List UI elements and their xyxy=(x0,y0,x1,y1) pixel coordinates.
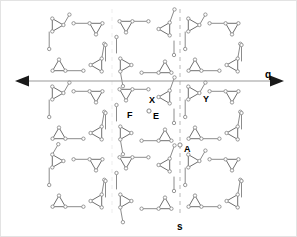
trimer-node xyxy=(187,30,190,33)
trimer-tail-node xyxy=(204,149,207,152)
diagram-canvas xyxy=(1,1,297,237)
trimer-node xyxy=(101,22,104,25)
point-label-y: Y xyxy=(203,95,209,104)
trimer-node xyxy=(157,163,160,166)
trimer-node xyxy=(100,206,103,209)
trimer-node xyxy=(130,131,133,134)
trimer-node xyxy=(51,69,54,72)
trimer-node xyxy=(200,137,203,140)
trimer-node xyxy=(225,131,228,134)
trimer-node xyxy=(88,22,91,25)
trimer-tail-node xyxy=(147,156,150,159)
cell-rail-node xyxy=(240,111,243,114)
trimer-node xyxy=(119,206,122,209)
trimer-node xyxy=(119,125,122,128)
axis-label-s: s xyxy=(177,222,183,232)
trimer-node xyxy=(51,205,54,208)
cell-rail-node xyxy=(240,179,243,182)
trimer-tail xyxy=(120,139,123,154)
trimer-node xyxy=(224,22,227,25)
trimer-node xyxy=(119,70,122,73)
trimer-node xyxy=(237,158,240,161)
trimer-node xyxy=(193,194,196,197)
point-label-x: X xyxy=(149,96,155,105)
trimer-node xyxy=(101,90,104,93)
trimer-node xyxy=(157,95,160,98)
trimer-node xyxy=(200,69,203,72)
trimer-tail-node xyxy=(121,84,124,87)
trimer-node xyxy=(237,22,240,25)
trimer-node xyxy=(100,57,103,60)
trimer-node xyxy=(236,138,239,141)
trimer-node xyxy=(157,139,160,142)
axis-arrow-right-icon xyxy=(270,76,284,87)
cell-rail-node xyxy=(184,115,187,118)
trimer-node xyxy=(236,70,239,73)
trimer-node xyxy=(89,131,92,134)
cell-rail-node xyxy=(172,53,175,56)
trimer-node xyxy=(89,199,92,202)
trimer-node xyxy=(200,205,203,208)
trimer-tail-node xyxy=(208,90,211,93)
trimer-node xyxy=(187,205,190,208)
cell-rail-node xyxy=(184,47,187,50)
trimer-node xyxy=(94,33,97,36)
trimer-node xyxy=(168,89,171,92)
trimer-node xyxy=(88,158,91,161)
trimer-node xyxy=(62,91,65,94)
trimer-node xyxy=(131,156,134,159)
cell-rail-node xyxy=(184,183,187,186)
cell-rail-node xyxy=(172,121,175,124)
trimer-tail-node xyxy=(72,22,75,25)
trimer-tail-node xyxy=(68,13,71,16)
trimer-node xyxy=(193,126,196,129)
cell-rail-node xyxy=(48,115,51,118)
trimer-node xyxy=(119,193,122,196)
axis-arrow-left-icon xyxy=(15,76,29,87)
trimer-tail-node xyxy=(173,144,176,147)
cell-rail-node xyxy=(104,111,107,114)
trimer-node xyxy=(230,33,233,36)
trimer-node xyxy=(130,63,133,66)
trimer-node xyxy=(51,166,54,169)
point-label-e: E xyxy=(153,112,159,121)
trimer-node xyxy=(118,20,121,23)
trimer-node xyxy=(124,99,127,102)
trimer-node xyxy=(170,71,173,74)
trimer-node xyxy=(193,58,196,61)
trimer-node xyxy=(170,207,173,210)
trimer-node xyxy=(187,17,190,20)
trimer-node xyxy=(224,90,227,93)
trimer-node xyxy=(101,158,104,161)
trimer-tail-node xyxy=(173,76,176,79)
trimer-tail-node xyxy=(173,8,176,11)
trimer-node xyxy=(168,157,171,160)
cell-rail-node xyxy=(48,47,51,50)
trimer-tail-node xyxy=(208,22,211,25)
trimer-tail xyxy=(120,71,123,86)
trimer-tail-node xyxy=(140,71,143,74)
trimer-tail-node xyxy=(121,220,124,223)
cell-rail-node xyxy=(115,103,118,106)
trimer-node xyxy=(230,169,233,172)
trimer-node xyxy=(157,27,160,30)
trimer-node xyxy=(157,207,160,210)
trimer-node xyxy=(163,60,166,63)
trimer-node xyxy=(187,98,190,101)
trimer-node xyxy=(168,170,171,173)
trimer-node xyxy=(100,138,103,141)
trimer-node xyxy=(124,167,127,170)
trimer-node xyxy=(198,23,201,26)
trimer-node xyxy=(131,20,134,23)
trimer-tail-node xyxy=(147,88,150,91)
trimer-node xyxy=(62,23,65,26)
trimer-node xyxy=(187,166,190,169)
trimer-tail-node xyxy=(218,137,221,140)
trimer-node xyxy=(51,137,54,140)
cell-rail-node xyxy=(115,171,118,174)
trimer-node xyxy=(51,30,54,33)
trimer-node xyxy=(236,193,239,196)
trimer-node xyxy=(94,101,97,104)
trimer-node xyxy=(100,125,103,128)
special-point-a xyxy=(178,143,182,147)
